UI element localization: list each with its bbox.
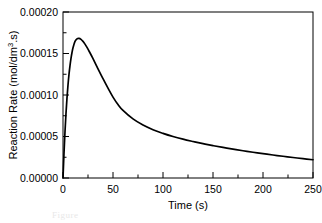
svg-text:Reaction Rate (mol/dm3.s): Reaction Rate (mol/dm3.s): [6, 31, 20, 160]
y-axis-title-prefix: Reaction Rate (mol/dm: [7, 47, 19, 160]
y-tick-label: 0.00010: [20, 89, 58, 101]
x-axis-title: Time (s): [168, 199, 208, 211]
y-axis-title: Reaction Rate (mol/dm3.s): [6, 31, 20, 160]
x-tick-label: 200: [254, 183, 272, 195]
y-tick-label: 0.00015: [20, 47, 58, 59]
y-tick-label: 0.00020: [20, 6, 58, 18]
x-axis-ticks: [63, 172, 313, 178]
x-tick-label: 0: [60, 183, 66, 195]
reaction-rate-plot: 050100150200250 0.000000.000050.000100.0…: [0, 0, 322, 223]
x-tick-label: 100: [154, 183, 172, 195]
x-tick-label: 250: [304, 183, 322, 195]
y-axis-title-suffix: .s): [7, 31, 19, 43]
x-tick-label: 150: [204, 183, 222, 195]
x-tick-label: 50: [107, 183, 119, 195]
y-axis-tick-labels: 0.000000.000050.000100.000150.00020: [20, 6, 58, 184]
y-tick-label: 0.00005: [20, 130, 58, 142]
caption-stub: Figure: [52, 210, 79, 220]
chart-figure: 050100150200250 0.000000.000050.000100.0…: [0, 0, 322, 223]
y-tick-label: 0.00000: [20, 172, 58, 184]
x-axis-tick-labels: 050100150200250: [60, 183, 322, 195]
data-series-reaction-rate: [63, 38, 313, 178]
plot-frame: [63, 12, 313, 178]
